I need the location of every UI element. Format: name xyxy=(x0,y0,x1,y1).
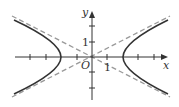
y-tick-label-1: 1 xyxy=(82,37,89,48)
origin-label: O xyxy=(81,60,90,71)
hyperbola-diagram: y x O 1 1 xyxy=(0,0,179,107)
graph-canvas xyxy=(0,0,179,107)
x-axis-label: x xyxy=(163,60,169,71)
y-axis-label: y xyxy=(82,7,88,18)
x-tick-label-1: 1 xyxy=(104,62,111,73)
y-axis-arrow xyxy=(89,11,95,18)
